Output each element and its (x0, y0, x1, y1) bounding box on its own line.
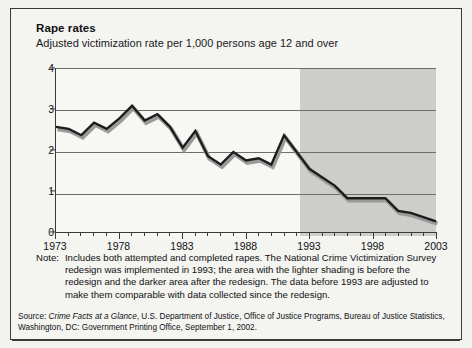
x-axis-tick-1986 (220, 232, 221, 236)
x-axis-tick-2000 (398, 232, 399, 236)
x-axis-tick-1994 (322, 232, 323, 236)
x-axis-tick-1991 (284, 232, 285, 236)
y-axis-tick-1 (50, 190, 55, 191)
note-text: Includes both attempted and completed ra… (65, 252, 440, 301)
x-axis-tick-2002 (423, 232, 424, 236)
x-axis-tick-1989 (258, 232, 259, 236)
x-axis-tick-1976 (93, 232, 94, 236)
x-axis-tick-1998 (373, 232, 374, 239)
x-axis-tick-2001 (411, 232, 412, 236)
source-prefix: Source: (18, 312, 49, 321)
x-axis-tick-1999 (385, 232, 386, 236)
x-axis-tick-1996 (347, 232, 348, 236)
note-block: Note: Includes both attempted and comple… (36, 252, 440, 301)
x-axis-label-1973: 1973 (43, 240, 66, 252)
x-axis-tick-1997 (360, 232, 361, 236)
x-axis-tick-1984 (195, 232, 196, 236)
x-axis-label-2003: 2003 (424, 240, 447, 252)
x-axis-tick-1983 (182, 232, 183, 239)
x-axis-tick-1987 (233, 232, 234, 236)
page-title: Rape rates (36, 22, 436, 35)
x-axis-tick-1979 (131, 232, 132, 236)
x-axis-tick-1988 (246, 232, 247, 239)
x-axis-tick-1978 (119, 232, 120, 239)
title-block: Rape rates Adjusted victimization rate p… (36, 22, 436, 50)
source-publication-title: Crime Facts at a Glance (49, 312, 137, 321)
x-axis-label-1988: 1988 (234, 240, 257, 252)
bottom-rule (12, 339, 460, 341)
source-note: Source: Crime Facts at a Glance, U.S. De… (18, 312, 452, 333)
x-axis-tick-1981 (157, 232, 158, 236)
chart-plot: 01234 1973197819831988199319982003 (36, 64, 436, 236)
chart-subtitle: Adjusted victimization rate per 1,000 pe… (36, 37, 436, 50)
figure-page: Rape rates Adjusted victimization rate p… (0, 0, 472, 348)
y-axis-tick-2 (50, 149, 55, 150)
data-series-line (56, 68, 436, 236)
x-axis-tick-1993 (309, 232, 310, 239)
x-axis-label-1998: 1998 (361, 240, 384, 252)
x-axis-tick-1973 (55, 232, 56, 239)
y-axis-tick-4 (50, 67, 55, 68)
x-axis-tick-1977 (106, 232, 107, 236)
x-axis-label-1983: 1983 (170, 240, 193, 252)
x-axis-tick-1975 (80, 232, 81, 236)
x-axis-label-1993: 1993 (297, 240, 320, 252)
note-label: Note: (36, 252, 59, 301)
x-axis-tick-1995 (334, 232, 335, 236)
x-axis-label-1978: 1978 (107, 240, 130, 252)
x-axis-tick-1992 (296, 232, 297, 236)
x-axis-tick-1980 (144, 232, 145, 236)
x-axis-tick-1990 (271, 232, 272, 236)
x-axis-tick-1982 (169, 232, 170, 236)
plot-area (55, 68, 436, 236)
x-axis-tick-1974 (68, 232, 69, 236)
y-axis-tick-3 (50, 108, 55, 109)
x-axis-tick-1985 (207, 232, 208, 236)
x-axis-tick-2003 (436, 232, 437, 239)
